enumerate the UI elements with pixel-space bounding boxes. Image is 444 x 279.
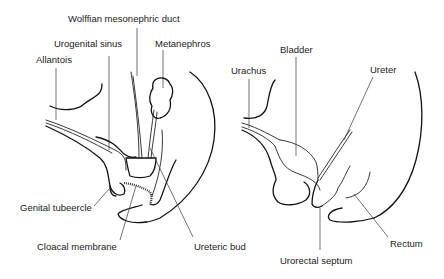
embryology-diagram: Wolffian mesonephric duct Urogenital sin… (0, 0, 444, 279)
label-urachus: Urachus (231, 65, 266, 76)
urogenital-sinus-outline (126, 158, 156, 178)
label-cloacal-membrane: Cloacal membrane (37, 241, 117, 252)
label-urorectal-septum: Urorectal septum (280, 255, 352, 266)
right-outer-curve (374, 72, 422, 218)
metanephros-outline (150, 78, 173, 118)
label-ureteric-bud: Ureteric bud (194, 241, 246, 252)
right-leader-lines (249, 57, 388, 250)
label-wolffian-mesonephric-duct: Wolffian mesonephric duct (68, 13, 180, 24)
label-allantois: Allantois (36, 54, 72, 65)
bladder-outline (242, 130, 310, 205)
left-embryo-drawing (46, 72, 215, 223)
label-metanephros: Metanephros (155, 38, 210, 49)
label-ureter: Ureter (370, 64, 396, 75)
wolffian-duct (133, 76, 142, 158)
label-bladder: Bladder (280, 44, 313, 55)
right-embryo-drawing (242, 72, 422, 222)
label-urogenital-sinus: Urogenital sinus (54, 38, 122, 49)
genital-tubercle-outline (110, 183, 125, 195)
embryo-outer-curve (146, 72, 215, 222)
cloacal-membrane-line (124, 183, 152, 204)
label-genital-tubercle: Genital tubeercle (20, 202, 92, 213)
label-rectum: Rectum (390, 238, 423, 249)
rectum-outline (346, 172, 370, 198)
allantois-outline (50, 84, 102, 110)
ventral-body-wall (46, 126, 116, 196)
